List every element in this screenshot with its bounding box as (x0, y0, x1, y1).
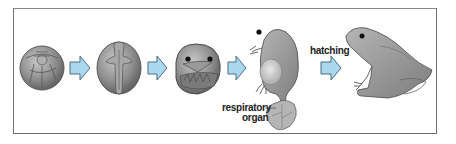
stage-embryo (176, 44, 220, 94)
stage-neurula (97, 42, 141, 94)
stage-egg-cleavage (20, 46, 64, 90)
development-diagram (0, 0, 456, 144)
arrow-right-icon (148, 56, 167, 80)
arrow-right-icon (321, 56, 341, 80)
arrow-right-icon (228, 56, 246, 80)
arrow-right-icon (70, 56, 90, 80)
stage-adult-frog (346, 28, 432, 98)
label-organ: organ (242, 113, 268, 123)
label-hatching: hatching (310, 46, 349, 56)
